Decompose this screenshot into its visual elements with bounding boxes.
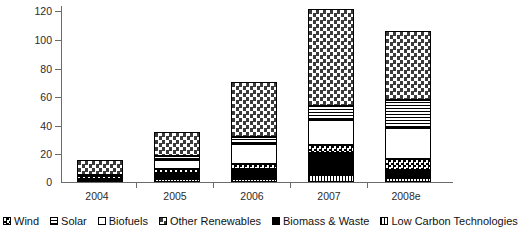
x-tick-label-2007: 2007 — [294, 191, 364, 202]
y-tick-label-100: 100 — [18, 35, 52, 46]
segment-other-2005[interactable] — [154, 132, 200, 155]
y-tick-mark-120 — [55, 11, 61, 12]
legend-label-lowcarbon: Low Carbon Technologies — [391, 215, 517, 227]
segment-other-2007[interactable] — [308, 9, 354, 106]
segment-lowcarbon-2007[interactable] — [308, 175, 354, 182]
bar-2005[interactable] — [154, 132, 200, 182]
bar-2007[interactable] — [308, 9, 354, 182]
y-tick-label-60: 60 — [18, 92, 52, 103]
segment-lowcarbon-2006[interactable] — [231, 179, 277, 182]
segment-solar-2006[interactable] — [231, 137, 277, 144]
y-tick-label-120: 120 — [18, 6, 52, 17]
segment-biofuels-2006[interactable] — [231, 144, 277, 165]
legend-label-biomass: Biomass & Waste — [283, 215, 369, 227]
segment-other-2004[interactable] — [77, 160, 123, 175]
legend-label-other: Other Renewables — [170, 215, 261, 227]
legend-label-wind: Wind — [14, 215, 39, 227]
x-tick-label-2008e: 2008e — [371, 191, 441, 202]
bar-2008e[interactable] — [385, 31, 431, 182]
segment-lowcarbon-2008e[interactable] — [385, 178, 431, 182]
segment-biomass-2008e[interactable] — [385, 170, 431, 177]
x-tick-label-2006: 2006 — [217, 191, 287, 202]
segment-wind-2004[interactable] — [77, 176, 123, 179]
legend-swatch-biomass-icon — [272, 217, 280, 225]
legend-swatch-wind-icon — [3, 217, 11, 225]
legend-swatch-solar-icon — [50, 217, 58, 225]
segment-wind-2008e[interactable] — [385, 159, 431, 171]
legend-item-lowcarbon[interactable]: Low Carbon Technologies — [380, 215, 517, 227]
legend-item-biomass[interactable]: Biomass & Waste — [272, 215, 369, 227]
legend-item-other[interactable]: Other Renewables — [159, 215, 261, 227]
segment-biomass-2006[interactable] — [231, 169, 277, 179]
y-tick-mark-40 — [55, 126, 61, 127]
x-tick-label-2004: 2004 — [62, 191, 132, 202]
y-tick-mark-20 — [55, 154, 61, 155]
x-tick-mark-1 — [213, 183, 214, 188]
chart-legend: WindSolarBiofuelsOther RenewablesBiomass… — [3, 211, 467, 231]
x-tick-mark-0 — [136, 183, 137, 188]
y-tick-label-20: 20 — [18, 149, 52, 160]
segment-other-2008e[interactable] — [385, 31, 431, 100]
y-tick-mark-100 — [55, 40, 61, 41]
segment-biofuels-2005[interactable] — [154, 160, 200, 169]
x-tick-mark-3 — [367, 183, 368, 188]
x-tick-label-2005: 2005 — [140, 191, 210, 202]
segment-solar-2005[interactable] — [154, 156, 200, 160]
segment-solar-2008e[interactable] — [385, 100, 431, 128]
legend-label-solar: Solar — [61, 215, 87, 227]
y-tick-label-40: 40 — [18, 121, 52, 132]
y-tick-mark-60 — [55, 97, 61, 98]
bar-2004[interactable] — [77, 160, 123, 182]
segment-wind-2006[interactable] — [231, 164, 277, 168]
legend-item-biofuels[interactable]: Biofuels — [98, 215, 148, 227]
legend-swatch-lowcarbon-icon — [380, 217, 388, 225]
bars-layer — [62, 6, 452, 182]
segment-wind-2005[interactable] — [154, 169, 200, 173]
legend-item-solar[interactable]: Solar — [50, 215, 87, 227]
x-axis-line — [61, 182, 453, 183]
x-tick-mark-2 — [290, 183, 291, 188]
y-tick-label-0: 0 — [18, 177, 52, 188]
segment-wind-2007[interactable] — [308, 145, 354, 152]
bar-2006[interactable] — [231, 82, 277, 182]
legend-swatch-other-icon — [159, 217, 167, 225]
segment-biofuels-2007[interactable] — [308, 120, 354, 145]
y-tick-mark-80 — [55, 69, 61, 70]
segment-lowcarbon-2005[interactable] — [154, 179, 200, 182]
legend-label-biofuels: Biofuels — [109, 215, 148, 227]
legend-swatch-biofuels-icon — [98, 217, 106, 225]
segment-solar-2007[interactable] — [308, 106, 354, 121]
legend-item-wind[interactable]: Wind — [3, 215, 39, 227]
segment-biomass-2007[interactable] — [308, 153, 354, 175]
y-tick-label-80: 80 — [18, 64, 52, 75]
segment-other-2006[interactable] — [231, 82, 277, 136]
segment-biofuels-2008e[interactable] — [385, 128, 431, 159]
segment-biomass-2005[interactable] — [154, 173, 200, 179]
